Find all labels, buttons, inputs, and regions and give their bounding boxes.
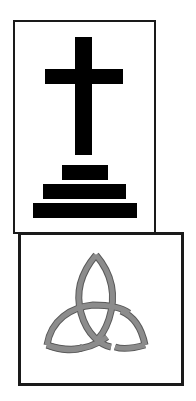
triquetra-panel (18, 232, 184, 386)
cross-panel (13, 20, 156, 234)
cross-step-3 (33, 203, 137, 218)
cross-vertical-beam (75, 37, 92, 155)
cross-horizontal-beam (45, 69, 123, 84)
cross-step-1 (62, 165, 108, 180)
cross-step-2 (43, 184, 126, 199)
triquetra-icon (21, 235, 181, 383)
